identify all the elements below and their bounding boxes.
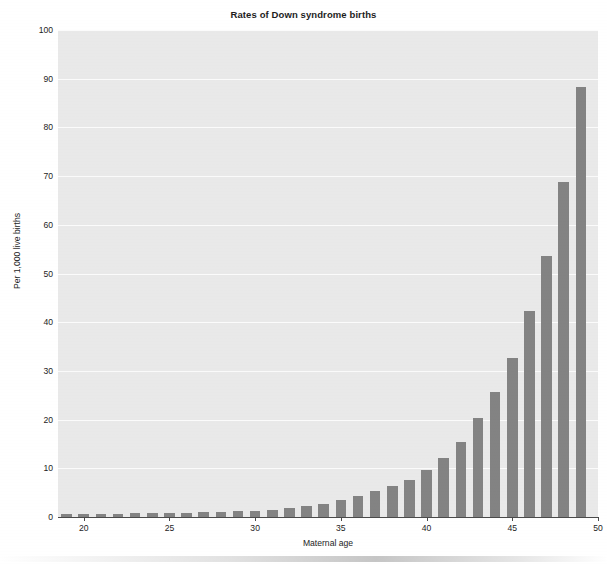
bar — [318, 504, 329, 517]
x-tick-label: 45 — [492, 523, 532, 533]
x-axis-title: Maternal age — [58, 538, 598, 548]
y-axis-tick-labels: 0102030405060708090100 — [0, 0, 53, 564]
bar — [284, 508, 295, 517]
x-tick-label: 20 — [64, 523, 104, 533]
bar — [404, 480, 415, 517]
x-axis-line — [58, 517, 599, 518]
bar — [524, 311, 535, 517]
bar — [473, 418, 484, 517]
y-tick-label: 30 — [5, 366, 53, 376]
chart-title: Rates of Down syndrome births — [0, 9, 607, 20]
x-tick-label: 40 — [407, 523, 447, 533]
scan-edge-streak — [0, 556, 607, 562]
bar — [353, 496, 364, 517]
y-axis-title: Per 1,000 live births — [12, 181, 22, 321]
y-tick-label: 0 — [5, 512, 53, 522]
x-tick-label: 25 — [149, 523, 189, 533]
bar — [576, 87, 587, 518]
bar — [507, 358, 518, 517]
bar — [541, 256, 552, 517]
bar — [558, 182, 569, 517]
bar — [267, 510, 278, 517]
x-tick-mark — [341, 517, 342, 521]
x-tick-mark — [598, 517, 599, 521]
x-tick-mark — [84, 517, 85, 521]
x-tick-label: 50 — [578, 523, 607, 533]
x-tick-mark — [255, 517, 256, 521]
y-tick-label: 10 — [5, 463, 53, 473]
x-tick-label: 35 — [321, 523, 361, 533]
bar — [336, 500, 347, 517]
plot-area — [58, 30, 598, 517]
x-tick-mark — [169, 517, 170, 521]
chart-figure: Rates of Down syndrome births 0102030405… — [0, 0, 607, 564]
y-tick-label: 100 — [5, 25, 53, 35]
y-tick-label: 90 — [5, 74, 53, 84]
bar — [421, 470, 432, 517]
bar — [456, 442, 467, 517]
y-tick-label: 70 — [5, 171, 53, 181]
x-tick-mark — [512, 517, 513, 521]
x-tick-mark — [427, 517, 428, 521]
bar-series — [58, 30, 598, 517]
x-tick-label: 30 — [235, 523, 275, 533]
y-tick-label: 80 — [5, 122, 53, 132]
y-tick-label: 20 — [5, 415, 53, 425]
bar — [490, 392, 501, 517]
bar — [438, 458, 449, 517]
bar — [370, 491, 381, 517]
bar — [387, 486, 398, 517]
bar — [301, 506, 312, 517]
